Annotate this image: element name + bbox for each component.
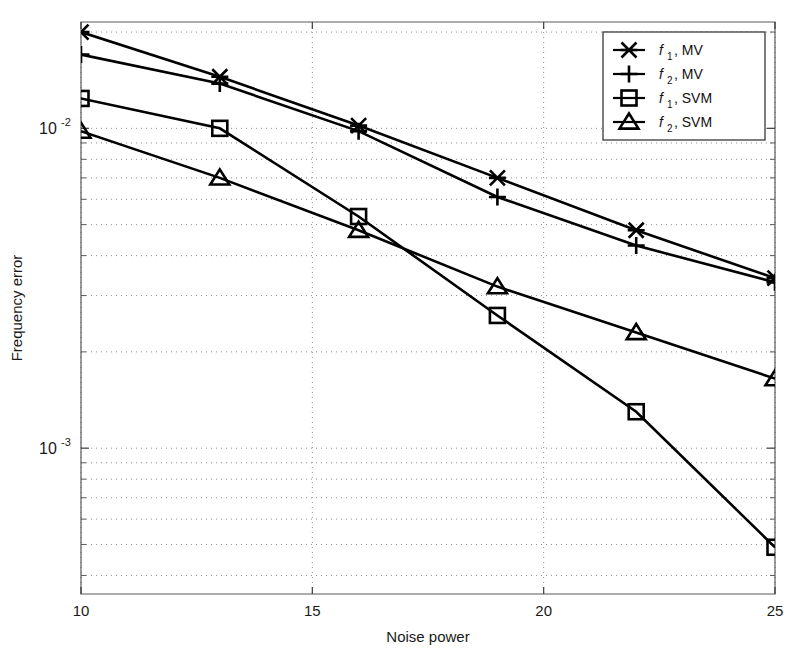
frequency-error-line-chart: 1015202510-210-3 Noise powerFrequency er… <box>0 0 802 655</box>
legend-label-tail: , SVM <box>674 114 712 130</box>
svg-text:10: 10 <box>39 120 57 137</box>
x-tick-label: 10 <box>73 602 90 619</box>
chart-legend[interactable]: f1, MVf2, MVf1, SVMf2, SVM <box>603 32 765 140</box>
legend-label-subscript: 2 <box>667 75 673 86</box>
legend-label-tail: , SVM <box>674 90 712 106</box>
svg-text:-3: -3 <box>61 436 71 448</box>
x-tick-label: 20 <box>535 602 552 619</box>
x-axis-title: Noise power <box>386 628 469 645</box>
legend-label-subscript: 2 <box>667 123 673 134</box>
chart-figure: 1015202510-210-3 Noise powerFrequency er… <box>0 0 802 655</box>
svg-text:10: 10 <box>39 440 57 457</box>
legend-label-subscript: 1 <box>667 99 673 110</box>
y-axis-title: Frequency error <box>8 255 25 362</box>
x-tick-label: 15 <box>304 602 321 619</box>
legend-label-tail: , MV <box>674 42 703 58</box>
legend-label-tail: , MV <box>674 66 703 82</box>
legend-label-subscript: 1 <box>667 51 673 62</box>
x-tick-label: 25 <box>767 602 784 619</box>
svg-text:-2: -2 <box>61 116 71 128</box>
